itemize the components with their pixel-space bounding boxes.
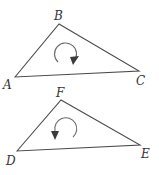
vertex-label-c: C [136, 74, 145, 88]
clockwise-arrow-icon [55, 43, 79, 65]
triangle-def: F D E [5, 86, 150, 168]
triangle-abc: B A C [2, 9, 145, 92]
vertex-label-a: A [2, 78, 12, 92]
vertex-label-f: F [55, 86, 65, 100]
triangle-def-outline [17, 100, 140, 151]
vertex-label-e: E [140, 147, 150, 161]
triangles-diagram: B A C F D E [0, 0, 159, 175]
vertex-label-d: D [5, 154, 16, 168]
counterclockwise-arrow-icon [51, 118, 77, 140]
triangle-abc-outline [15, 24, 139, 77]
vertex-label-b: B [53, 9, 63, 23]
